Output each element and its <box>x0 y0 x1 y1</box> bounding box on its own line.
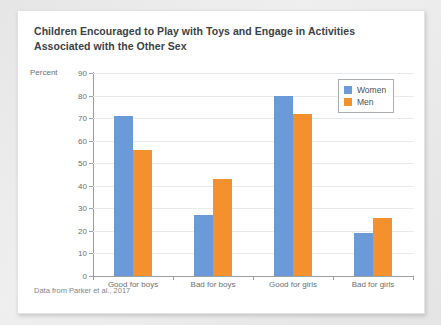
y-tick-label: 40 <box>78 181 87 190</box>
legend-item-men[interactable]: Men <box>344 96 386 108</box>
x-tick-label: Bad for boys <box>191 280 236 289</box>
legend: WomenMen <box>338 79 394 113</box>
bar-women-bad-for-boys[interactable] <box>194 215 213 276</box>
x-tick-mark <box>253 276 254 280</box>
y-tick-label: 60 <box>78 136 87 145</box>
legend-label: Men <box>357 97 374 107</box>
y-axis-title: Percent <box>30 68 58 77</box>
y-tick-mark <box>89 186 93 187</box>
y-tick-mark <box>89 231 93 232</box>
chart-card: Children Encouraged to Play with Toys an… <box>17 10 425 314</box>
x-tick-mark <box>413 276 414 280</box>
y-tick-mark <box>89 118 93 119</box>
legend-label: Women <box>357 85 386 95</box>
bar-men-bad-for-girls[interactable] <box>373 218 392 276</box>
y-tick-label: 0 <box>83 272 87 281</box>
bar-men-good-for-boys[interactable] <box>133 150 152 276</box>
bar-women-bad-for-girls[interactable] <box>354 233 373 276</box>
x-tick-mark <box>93 276 94 280</box>
y-tick-label: 90 <box>78 69 87 78</box>
x-tick-mark <box>173 276 174 280</box>
y-tick-mark <box>89 163 93 164</box>
y-tick-mark <box>89 253 93 254</box>
y-tick-mark <box>89 96 93 97</box>
bar-group <box>114 73 152 276</box>
page-title: Children Encouraged to Play with Toys an… <box>34 24 409 53</box>
y-tick-label: 80 <box>78 91 87 100</box>
y-tick-label: 20 <box>78 226 87 235</box>
x-tick-label: Bad for girls <box>352 280 395 289</box>
bar-men-bad-for-boys[interactable] <box>213 179 232 276</box>
legend-swatch-icon <box>344 86 352 94</box>
legend-item-women[interactable]: Women <box>344 84 386 96</box>
bar-men-good-for-girls[interactable] <box>293 114 312 276</box>
y-tick-label: 70 <box>78 114 87 123</box>
bar-women-good-for-girls[interactable] <box>274 96 293 276</box>
y-tick-label: 30 <box>78 204 87 213</box>
y-tick-mark <box>89 208 93 209</box>
y-axis-line <box>93 72 94 277</box>
x-tick-label: Good for girls <box>269 280 317 289</box>
bar-group <box>194 73 232 276</box>
y-tick-mark <box>89 73 93 74</box>
bar-women-good-for-boys[interactable] <box>114 116 133 276</box>
source-caption: Data from Parker et al., 2017 <box>34 286 130 295</box>
y-tick-label: 50 <box>78 159 87 168</box>
y-tick-label: 10 <box>78 249 87 258</box>
bar-group <box>274 73 312 276</box>
legend-swatch-icon <box>344 98 352 106</box>
y-tick-mark <box>89 141 93 142</box>
x-tick-mark <box>333 276 334 280</box>
